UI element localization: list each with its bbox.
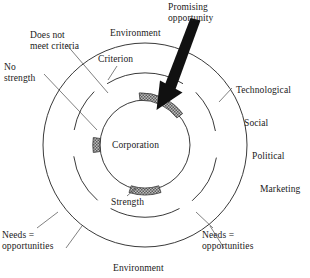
promising-opportunity-arrow xyxy=(157,18,201,110)
environment-force-social: Social xyxy=(244,118,300,129)
label-strength: Strength xyxy=(111,197,144,208)
arrow-shaft xyxy=(164,18,201,92)
diagram-figure: Promising opportunity Does not meet crit… xyxy=(0,0,310,278)
label-needs-opportunities-right: Needs = opportunities xyxy=(202,230,253,252)
environment-force-political: Political xyxy=(252,151,300,162)
label-no-strength: No strength xyxy=(4,62,35,84)
environment-force-technological: Technological xyxy=(236,85,300,96)
criterion-arc-bottom xyxy=(111,209,180,218)
leader-no-strength xyxy=(44,74,97,130)
environment-force-marketing: Marketing xyxy=(260,184,300,195)
label-environment-forces: Technological Social Political Marketing xyxy=(236,63,300,217)
criterion-arc-lower-left xyxy=(74,156,98,200)
label-does-not-meet-criteria: Does not meet criteria xyxy=(30,30,79,52)
label-needs-opportunities-left: Needs = opportunities xyxy=(2,230,53,252)
criterion-arc-upper-right xyxy=(196,92,216,131)
leader-needs-right-a xyxy=(196,212,213,228)
leader-environment-forces xyxy=(219,88,232,102)
label-environment-top: Environment xyxy=(110,28,161,39)
criterion-arc-lower-right xyxy=(192,158,216,201)
label-criterion: Criterion xyxy=(98,54,133,65)
leader-needs-left-b xyxy=(66,226,82,248)
label-corporation: Corporation xyxy=(112,140,159,151)
label-promising-opportunity: Promising opportunity xyxy=(168,2,213,24)
no-strength-segment xyxy=(93,138,100,153)
leader-needs-left-a xyxy=(37,212,58,228)
leader-criterion xyxy=(108,66,117,80)
label-environment-bottom: Environment xyxy=(113,263,164,274)
